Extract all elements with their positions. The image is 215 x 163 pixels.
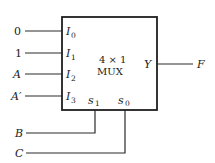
- svg-text:s: s: [88, 94, 94, 107]
- svg-text:2: 2: [71, 74, 76, 83]
- mux-diagram: 0 1 A A′ I 0 I 1 I 2 I 3 4 × 1 MUX Y F s…: [0, 0, 215, 163]
- wire-select-0: [26, 110, 125, 153]
- svg-text:s: s: [118, 94, 124, 107]
- signal-label-C: C: [15, 147, 24, 160]
- signal-label-2: A: [12, 68, 21, 81]
- svg-text:1: 1: [95, 99, 100, 108]
- mux-title-name: MUX: [97, 66, 124, 77]
- svg-text:0: 0: [71, 31, 76, 40]
- mux-title-size: 4 × 1: [99, 54, 126, 65]
- wire-select-1: [26, 110, 95, 133]
- svg-text:0: 0: [125, 99, 130, 108]
- svg-text:3: 3: [71, 96, 76, 105]
- signal-label-1: 1: [15, 47, 22, 60]
- signal-label-0: 0: [14, 25, 21, 38]
- signal-label-B: B: [14, 127, 23, 140]
- signal-label-F: F: [196, 58, 205, 71]
- svg-text:1: 1: [71, 53, 76, 62]
- signal-label-3: A′: [10, 90, 22, 103]
